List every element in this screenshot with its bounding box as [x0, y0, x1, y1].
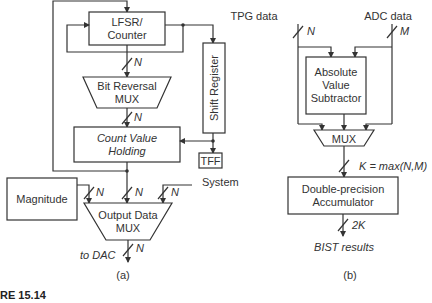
- out-width-label: 2K: [351, 219, 366, 231]
- output-mux-label-1: Output Data: [98, 209, 158, 221]
- count-value-label-1: Count Value: [97, 132, 157, 144]
- adc-data-label: ADC data: [364, 10, 413, 22]
- lfsr-label-2: Counter: [107, 29, 146, 41]
- subtractor-label-1: Absolute: [315, 66, 358, 78]
- panel-b-label: (b): [343, 269, 356, 281]
- panel-a: LFSR/ Counter N Bit Reversal MUX N Count…: [7, 1, 239, 281]
- output-mux-label-2: MUX: [116, 222, 141, 234]
- count-value-label-2: Holding: [108, 145, 146, 157]
- k-width-label: K = max(N,M): [359, 160, 427, 172]
- figure-caption: RE 15.14: [0, 289, 47, 301]
- panel-a-label: (a): [116, 269, 129, 281]
- panel-b: TPG data ADC data N M Absolute Value Sub…: [230, 10, 427, 281]
- subtractor-label-2: Value: [322, 79, 349, 91]
- lfsr-label-1: LFSR/: [111, 16, 143, 28]
- subtractor-label-3: Subtractor: [311, 92, 362, 104]
- junction-dot: [211, 139, 215, 143]
- bit-reversal-label-2: MUX: [115, 93, 140, 105]
- adc-to-subtractor-wire: [355, 47, 392, 57]
- bus-width-label: N: [134, 56, 142, 68]
- accumulator-label-1: Double-precision: [302, 183, 385, 195]
- bus-width-label: N: [134, 111, 142, 123]
- system-label: System: [202, 176, 239, 188]
- bit-reversal-label-1: Bit Reversal: [97, 80, 156, 92]
- bist-block-diagram: LFSR/ Counter N Bit Reversal MUX N Count…: [0, 0, 432, 303]
- bus-width-label: N: [135, 186, 143, 198]
- bist-results-label: BIST results: [314, 241, 374, 253]
- tpg-data-label: TPG data: [230, 10, 278, 22]
- bus-width-label: N: [171, 186, 179, 198]
- tpg-to-subtractor-wire: [298, 47, 331, 57]
- tpg-to-mux-wire: [298, 124, 322, 130]
- junction-dot: [125, 169, 129, 173]
- magnitude-to-mux-bus: [77, 185, 89, 203]
- bus-width-label: N: [96, 186, 104, 198]
- adc-width-label: M: [400, 25, 410, 37]
- accumulator-label-2: Accumulator: [312, 196, 373, 208]
- shift-register-label: Shift Register: [208, 55, 220, 121]
- lfsr-to-shift-register-wire: [183, 25, 213, 43]
- tff-label: TFF: [200, 155, 220, 167]
- mux-label: MUX: [332, 133, 357, 145]
- to-dac-label: to DAC: [80, 249, 116, 261]
- bus-width-label: N: [136, 242, 144, 254]
- adc-to-mux-wire: [366, 124, 392, 130]
- magnitude-label: Magnitude: [16, 193, 67, 205]
- tpg-width-label: N: [307, 25, 315, 37]
